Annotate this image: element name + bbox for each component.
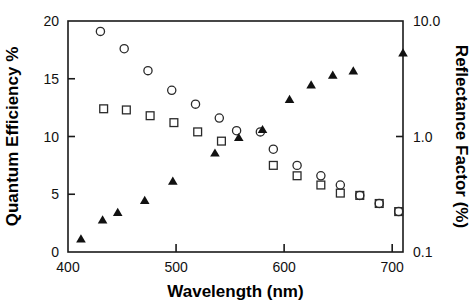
y2-axis-tick-label: 10.0	[413, 13, 440, 29]
y-axis-tick-label: 10	[43, 129, 59, 145]
x-axis-tick-label: 400	[56, 259, 80, 275]
data-point-circle	[168, 86, 176, 94]
data-point-triangle	[210, 148, 220, 156]
data-point-circle	[96, 27, 104, 35]
x-axis-tick-label: 700	[381, 259, 405, 275]
y-axis-tick-label: 0	[51, 244, 59, 260]
data-point-circle	[356, 191, 364, 199]
data-point-triangle	[140, 196, 150, 204]
data-point-circle	[336, 181, 344, 189]
data-point-triangle	[348, 66, 358, 74]
data-point-circle	[144, 67, 152, 75]
data-point-triangle	[306, 80, 316, 88]
x-axis-tick-label: 500	[164, 259, 188, 275]
data-point-square	[170, 119, 178, 127]
data-point-triangle	[258, 125, 268, 133]
data-point-square	[218, 137, 226, 145]
data-point-square	[317, 181, 325, 189]
data-point-circle	[191, 100, 199, 108]
data-point-square	[100, 105, 108, 113]
data-point-triangle	[328, 71, 338, 79]
data-point-triangle	[98, 215, 108, 223]
data-point-triangle	[285, 95, 295, 103]
data-point-triangle	[113, 208, 123, 216]
data-point-square	[336, 189, 344, 197]
y2-axis-tick-label: 0.1	[413, 244, 433, 260]
data-point-circle	[120, 45, 128, 53]
data-point-circle	[395, 207, 403, 215]
y-axis-tick-label: 5	[51, 186, 59, 202]
data-point-triangle	[168, 177, 178, 185]
data-point-square	[194, 128, 202, 136]
data-point-circle	[317, 172, 325, 180]
x-axis-title: Wavelength (nm)	[167, 282, 303, 301]
y2-axis-tick-label: 1.0	[413, 129, 433, 145]
data-point-circle	[375, 199, 383, 207]
data-point-circle	[215, 114, 223, 122]
y-axis-tick-label: 20	[43, 13, 59, 29]
data-point-circle	[269, 145, 277, 153]
scatter-plot: 051015200.11.010.0400500600700Wavelength…	[0, 0, 473, 301]
x-axis-tick-label: 600	[272, 259, 296, 275]
data-point-circle	[232, 127, 240, 135]
data-point-triangle	[398, 48, 408, 56]
data-point-circle	[293, 161, 301, 169]
figure-canvas: 051015200.11.010.0400500600700Wavelength…	[0, 0, 473, 301]
y-axis-tick-label: 15	[43, 71, 59, 87]
y2-axis-title: Reflectance Factor (%)	[452, 45, 471, 228]
data-point-square	[293, 172, 301, 180]
data-point-triangle	[76, 234, 86, 242]
data-point-square	[122, 106, 130, 114]
plot-frame	[68, 21, 403, 252]
data-point-square	[269, 161, 277, 169]
y-axis-title: Quantum Efficiency %	[3, 47, 22, 226]
data-point-square	[146, 112, 154, 120]
